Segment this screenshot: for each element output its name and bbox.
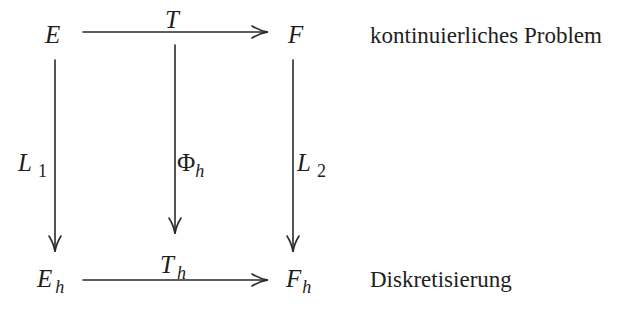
node-Eh-main: E [37, 265, 52, 292]
label-Phi-sub: h [195, 161, 204, 181]
label-Phi-h: Φh [177, 150, 204, 175]
node-F: F [288, 22, 303, 47]
label-L2: L2 [297, 150, 326, 175]
label-L2-main: L [297, 149, 311, 176]
label-T: T [165, 7, 179, 32]
label-Th-main: T [160, 251, 174, 278]
node-Fh-sub: h [302, 277, 311, 297]
label-L1-sub: 1 [38, 161, 47, 181]
node-F-main: F [288, 21, 303, 48]
label-L2-sub: 2 [317, 161, 326, 181]
row-label-discretization: Diskretisierung [370, 268, 512, 291]
node-Eh: Eh [37, 266, 64, 291]
row-label-continuous: kontinuierliches Problem [370, 24, 602, 47]
label-Phi-main: Φ [177, 149, 195, 176]
label-Th-sub: h [177, 263, 186, 283]
node-Fh: Fh [286, 266, 311, 291]
node-Eh-sub: h [55, 277, 64, 297]
node-Fh-main: F [286, 265, 301, 292]
label-L1: L1 [18, 150, 47, 175]
label-Th: Th [160, 252, 186, 277]
label-T-main: T [165, 6, 179, 33]
node-E: E [45, 22, 60, 47]
label-L1-main: L [18, 149, 32, 176]
node-E-main: E [45, 21, 60, 48]
